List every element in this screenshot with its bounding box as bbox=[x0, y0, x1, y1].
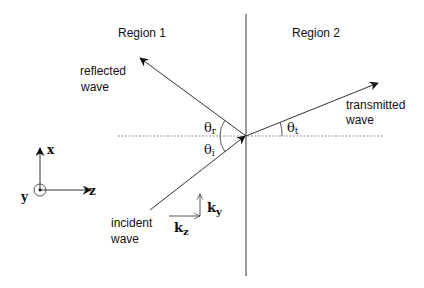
y-axis-dot bbox=[39, 189, 42, 192]
transmitted-angle-arc bbox=[280, 122, 282, 136]
y-axis-label: y bbox=[20, 190, 29, 204]
coordinate-axes: x y z bbox=[20, 143, 96, 204]
theta-t-label: θt bbox=[287, 120, 299, 136]
transmitted-wave-label: transmitted bbox=[346, 98, 405, 112]
z-axis-label: z bbox=[89, 184, 96, 198]
reflected-wave-arrow bbox=[140, 58, 246, 136]
incident-wave-label-2: wave bbox=[110, 232, 139, 246]
transmitted-wave-label-2: wave bbox=[345, 113, 374, 127]
x-axis-label: x bbox=[47, 143, 55, 157]
region-2-label: Region 2 bbox=[292, 26, 340, 40]
incident-wave-arrow bbox=[150, 136, 245, 210]
theta-r-label: θr bbox=[204, 120, 217, 136]
ky-label: ky bbox=[207, 200, 223, 217]
reflected-angle-arc bbox=[220, 120, 225, 136]
wave-interface-diagram: Region 1 Region 2 reflected wave transmi… bbox=[0, 0, 424, 288]
reflected-wave-label-2: wave bbox=[80, 80, 109, 94]
kz-label: kz bbox=[174, 220, 189, 237]
incident-angle-arc bbox=[220, 136, 225, 152]
incident-wave-label: incident bbox=[111, 216, 153, 230]
reflected-wave-label: reflected bbox=[80, 64, 126, 78]
theta-i-label: θi bbox=[204, 142, 215, 158]
region-1-label: Region 1 bbox=[118, 26, 166, 40]
